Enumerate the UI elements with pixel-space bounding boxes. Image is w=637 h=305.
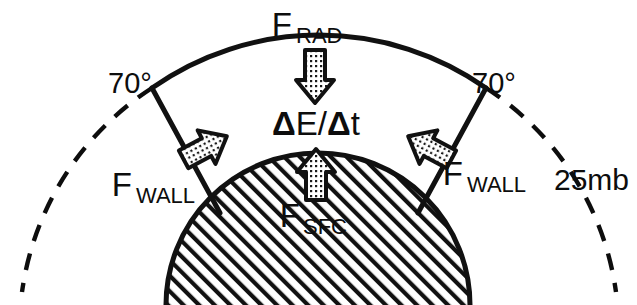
radiative-flux-symbol: F <box>272 6 292 43</box>
delta-symbol-2: Δ <box>327 105 351 142</box>
radiative-flux-subscript: RAD <box>296 23 342 48</box>
surface-flux-symbol: F <box>280 197 300 234</box>
time-symbol: t <box>351 105 360 142</box>
label-energy-tendency: ΔE/Δt <box>272 105 360 142</box>
latitude-label-left: 70° <box>108 67 152 99</box>
diagram-root: F RAD ΔE/Δt 70° 70° F WALL F WALL <box>0 0 637 305</box>
energy-symbol: E <box>296 105 318 142</box>
wall-flux-left-subscript: WALL <box>136 183 195 208</box>
latitude-label-right: 70° <box>472 67 516 99</box>
pressure-level-label: 25mb <box>554 163 629 196</box>
delta-symbol-1: Δ <box>272 105 296 142</box>
energy-tendency-text: ΔE/Δt <box>272 105 360 142</box>
surface-flux-subscript: SFC <box>303 214 347 239</box>
wall-flux-right-symbol: F <box>443 155 463 192</box>
energy-budget-diagram: F RAD ΔE/Δt 70° 70° F WALL F WALL <box>0 0 637 305</box>
wall-flux-left-symbol: F <box>112 166 132 203</box>
wall-flux-right-subscript: WALL <box>467 172 526 197</box>
